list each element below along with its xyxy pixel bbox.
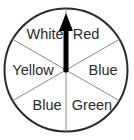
- sector-label-red: Red: [73, 26, 100, 42]
- sector-label-blue-right: Blue: [88, 62, 117, 78]
- sector-label-white: White: [26, 26, 63, 42]
- sector-label-blue-lower-left: Blue: [32, 97, 61, 113]
- sector-label-green: Green: [72, 97, 112, 113]
- spinner-pivot: [63, 67, 68, 72]
- sector-label-yellow: Yellow: [12, 62, 54, 78]
- spinner-figure: White Red Yellow Blue Blue Green: [0, 0, 134, 140]
- spinner-diagram: White Red Yellow Blue Blue Green: [0, 0, 134, 140]
